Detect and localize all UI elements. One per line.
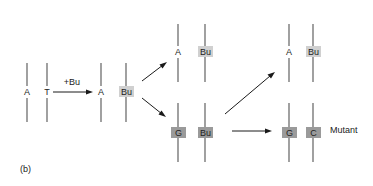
base-g: G xyxy=(175,128,182,138)
bu-mutagenesis-diagram: A T +Bu A Bu A Bu G xyxy=(0,0,373,186)
base-a: A xyxy=(24,87,30,97)
second-round-arrows xyxy=(225,72,275,134)
arrow-line xyxy=(142,98,162,114)
arrow-line xyxy=(142,65,163,81)
pair-original: A T xyxy=(24,63,50,122)
arrowhead-icon xyxy=(160,62,168,69)
base-a: A xyxy=(175,47,181,57)
branch-arrows xyxy=(142,62,167,117)
base-bu: Bu xyxy=(121,87,132,97)
base-a: A xyxy=(286,47,292,57)
base-bu: Bu xyxy=(308,47,319,57)
pair-replication-top: A Bu xyxy=(175,24,213,82)
base-a: A xyxy=(98,87,104,97)
pair-final-bottom: G C Mutant xyxy=(282,103,358,162)
arrowhead-icon xyxy=(265,129,272,134)
base-t: T xyxy=(44,87,50,97)
base-g: G xyxy=(286,128,293,138)
base-bu: Bu xyxy=(200,47,211,57)
bu-addition-arrow: +Bu xyxy=(53,77,93,95)
reagent-label: +Bu xyxy=(64,77,80,87)
arrow-line xyxy=(225,76,270,114)
arrowhead-icon xyxy=(86,90,93,95)
panel-label: (b) xyxy=(20,164,31,174)
base-bu: Bu xyxy=(200,128,211,138)
mutant-label: Mutant xyxy=(330,125,358,135)
base-c: C xyxy=(310,128,317,138)
pair-after-bu: A Bu xyxy=(98,63,134,122)
pair-replication-bottom: G Bu xyxy=(171,103,213,162)
pair-final-top: A Bu xyxy=(286,24,321,82)
